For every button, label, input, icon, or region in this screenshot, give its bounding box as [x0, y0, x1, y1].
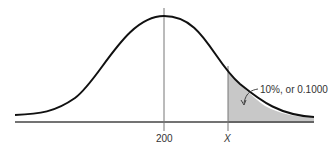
x-tick-label: X — [223, 133, 231, 144]
tail-annotation: 10%, or 0.1000 — [260, 84, 328, 95]
chart-canvas: 10%, or 0.1000 200 X — [0, 0, 330, 152]
mean-tick-label: 200 — [156, 133, 173, 144]
normal-curve-figure: 10%, or 0.1000 200 X — [0, 0, 330, 152]
